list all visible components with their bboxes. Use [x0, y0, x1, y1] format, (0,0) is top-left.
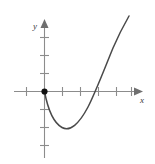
coordinate-plane-svg: y x — [0, 0, 155, 164]
origin-point-marker — [41, 88, 47, 94]
graph-figure: y x — [0, 0, 155, 164]
figure-background — [0, 0, 155, 164]
x-axis-label: x — [139, 95, 144, 105]
y-axis-label: y — [32, 21, 37, 31]
